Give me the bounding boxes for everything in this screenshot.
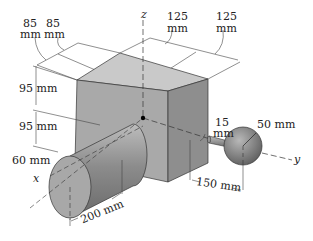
label-width-1-unit: mm <box>167 22 188 35</box>
label-depth-1-unit: mm <box>20 28 41 41</box>
z-axis-label: z <box>140 8 147 21</box>
box-right-face <box>168 79 208 182</box>
y-axis-label: y <box>293 153 301 166</box>
label-cylinder-radius: 60 mm <box>12 154 51 167</box>
label-sphere-radius: 50 mm <box>257 118 296 131</box>
label-depth-2-unit: mm <box>44 28 65 41</box>
origin-point <box>141 116 145 120</box>
label-rod-length: 150 mm <box>195 175 242 194</box>
label-width-2-unit: mm <box>216 22 237 35</box>
label-height-lower: 95 mm <box>19 120 58 133</box>
label-height-upper: 95 mm <box>19 82 58 95</box>
label-rod-diameter-unit: mm <box>213 127 234 140</box>
diagram: 85 mm 85 mm 125 mm 125 mm z x y 95 mm 95… <box>0 0 313 241</box>
mechanics-figure: 85 mm 85 mm 125 mm 125 mm z x y 95 mm 95… <box>0 0 313 241</box>
x-axis-label: x <box>33 172 40 185</box>
